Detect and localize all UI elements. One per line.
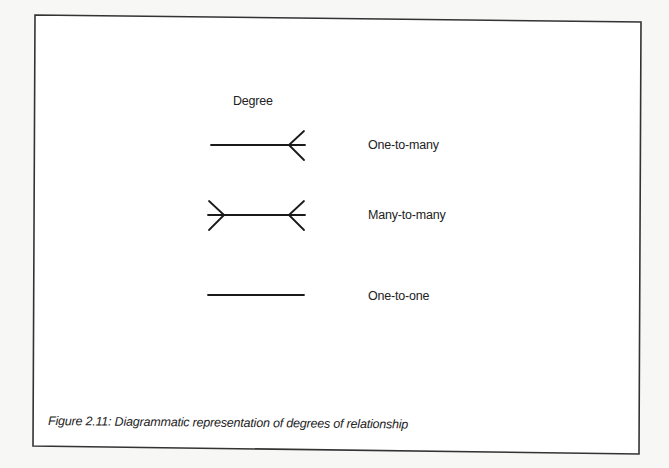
many-to-many-label: Many-to-many <box>368 208 445 222</box>
degree-heading: Degree <box>233 94 273 108</box>
one-to-many-label: One-to-many <box>368 138 439 152</box>
diagram-canvas <box>0 0 669 468</box>
one-to-one-label: One-to-one <box>368 289 429 303</box>
figure-frame <box>33 15 641 454</box>
